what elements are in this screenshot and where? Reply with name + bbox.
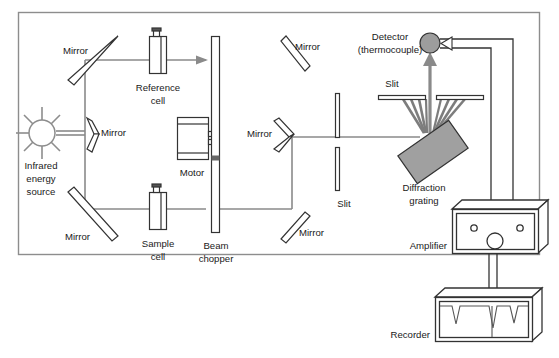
diffraction-fan bbox=[403, 99, 465, 133]
mirror-mid-right bbox=[274, 118, 294, 152]
mirror-source-splitter bbox=[87, 118, 99, 152]
mirror-blade bbox=[274, 118, 294, 137]
slit-lower bbox=[336, 94, 340, 191]
source-ray bbox=[24, 115, 33, 124]
infrared-source-label-3: source bbox=[27, 186, 56, 197]
fan-ray bbox=[426, 99, 427, 133]
mirror-top-right-label: Mirror bbox=[295, 41, 321, 52]
mirror-blade bbox=[87, 118, 99, 134]
amplifier-side-face bbox=[538, 200, 548, 253]
source-ray bbox=[24, 142, 33, 151]
recorder bbox=[435, 288, 542, 342]
amplifier bbox=[452, 200, 548, 254]
diffraction-grating-label-1: Diffraction bbox=[402, 182, 445, 193]
source-bulb-icon bbox=[29, 120, 55, 146]
slit-upper-jaw-right bbox=[437, 96, 484, 100]
mirror-blade bbox=[87, 134, 99, 152]
recorder-label: Recorder bbox=[391, 329, 431, 340]
sample-cell-label-1: Sample bbox=[142, 238, 175, 249]
amplifier-label: Amplifier bbox=[410, 240, 448, 251]
recorder-side-face bbox=[532, 288, 542, 341]
detector-thermocouple-icon bbox=[420, 33, 440, 53]
beam-chopper-blade bbox=[212, 37, 220, 233]
infrared-source-label-2: energy bbox=[26, 173, 56, 184]
mirror-mid-right-label: Mirror bbox=[247, 128, 273, 139]
slit-upper-label: Slit bbox=[385, 78, 399, 89]
motor-label: Motor bbox=[180, 167, 205, 178]
beam-arrow-upper bbox=[196, 56, 208, 65]
slit-upper-jaw-left bbox=[379, 96, 426, 100]
sample-cell-label-2: cell bbox=[151, 251, 165, 262]
reference-cell bbox=[150, 28, 167, 74]
mirror-blade bbox=[274, 134, 294, 152]
reference-cell-body bbox=[150, 37, 167, 74]
slit-lower-jaw-top bbox=[336, 94, 340, 138]
slit-lower-jaw-bottom bbox=[336, 148, 340, 191]
amplifier-knob-small-left bbox=[471, 225, 477, 231]
diffraction-grating-label-2: grating bbox=[409, 195, 438, 206]
mirror-bottom-left-label: Mirror bbox=[65, 231, 91, 242]
recorder-top-face bbox=[435, 288, 542, 297]
amplifier-knob-small-right bbox=[517, 225, 523, 231]
reference-cell-label-1: Reference bbox=[136, 82, 180, 93]
amplifier-top-face bbox=[452, 200, 548, 209]
beam-arrow-detector bbox=[423, 52, 437, 66]
beam-chopper-hub bbox=[212, 156, 220, 161]
sample-cell-cap bbox=[152, 184, 161, 187]
beam-chopper-label-1: Beam bbox=[203, 240, 228, 251]
mirror-bottom-right-label: Mirror bbox=[299, 227, 325, 238]
sample-cell-body bbox=[150, 193, 167, 230]
detector-label-1: Detector bbox=[372, 31, 409, 42]
mirror-source-label: Mirror bbox=[101, 127, 127, 138]
beam-chopper-label-2: chopper bbox=[199, 253, 234, 264]
mirror-top-left-label: Mirror bbox=[63, 45, 89, 56]
amplifier-knob-large bbox=[487, 233, 503, 249]
infrared-energy-source bbox=[16, 107, 60, 159]
source-ray bbox=[51, 115, 60, 124]
sample-cell bbox=[150, 184, 167, 230]
slit-lower-label: Slit bbox=[337, 198, 351, 209]
reference-cell-label-2: cell bbox=[151, 95, 165, 106]
infrared-source-label-1: Infrared bbox=[24, 160, 57, 171]
beam-chopper bbox=[212, 37, 220, 233]
reference-cell-cap bbox=[152, 28, 161, 31]
motor bbox=[178, 118, 214, 160]
detector-label-2: (thermocouple) bbox=[358, 44, 423, 55]
source-ray bbox=[51, 142, 60, 151]
ir-spectrophotometer-diagram: Infrared energy source Mirror Mirror Mir… bbox=[0, 0, 559, 358]
